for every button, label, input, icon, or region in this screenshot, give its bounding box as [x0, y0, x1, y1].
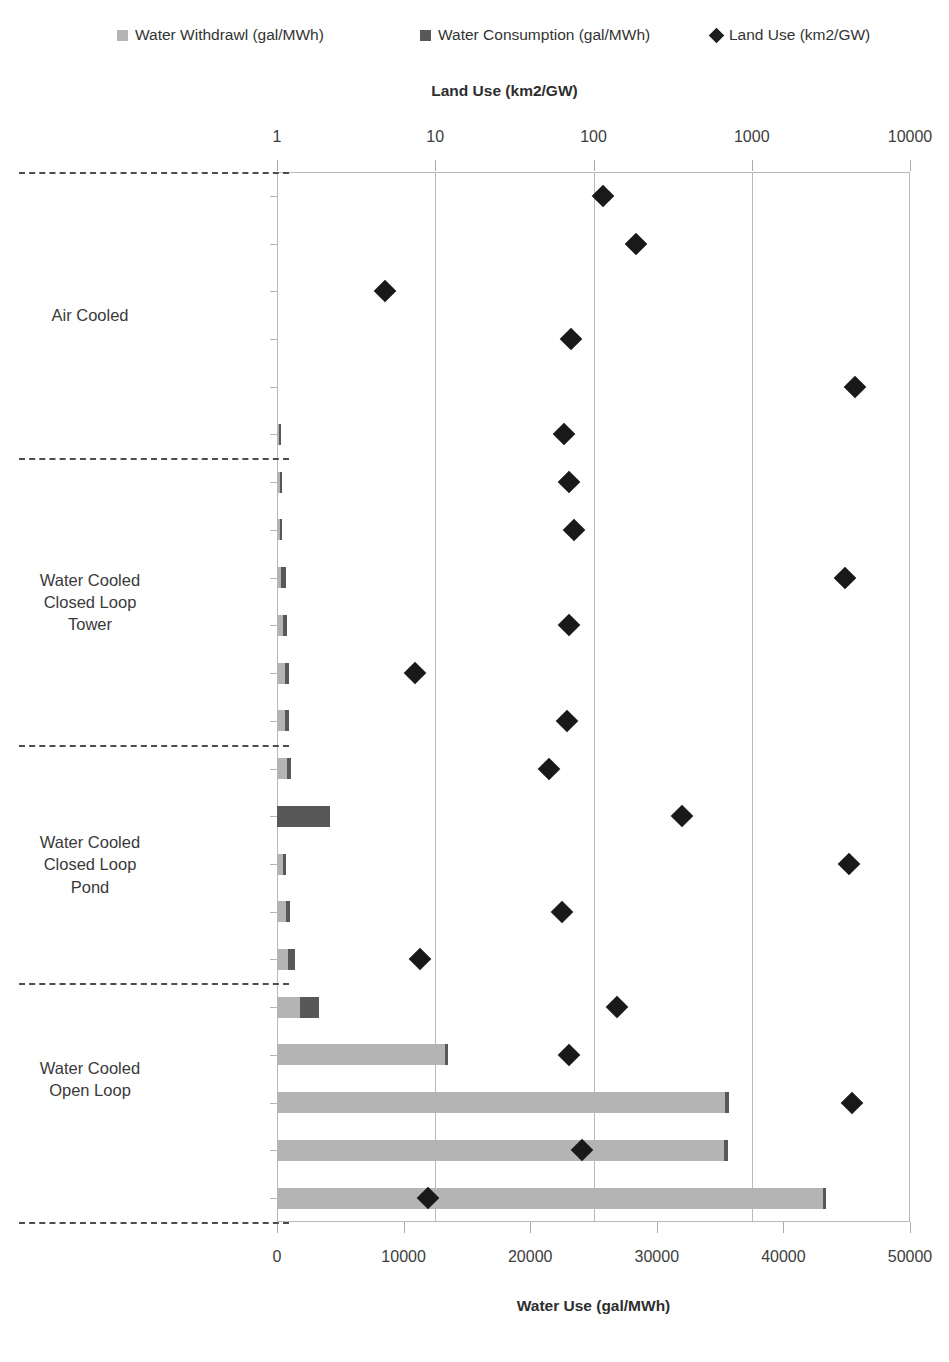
land-use-diamond-marker	[558, 1044, 581, 1067]
square-swatch-icon	[420, 30, 431, 41]
category-axis-tick	[270, 1198, 277, 1199]
category-axis-tick	[270, 769, 277, 770]
group-label: Water CooledOpen Loop	[5, 1057, 175, 1102]
legend-label: Land Use (km2/GW)	[729, 26, 870, 44]
water-consumption-bar	[286, 901, 290, 922]
chart-row: Coal IGCC	[277, 458, 910, 506]
top-axis-tick-label: 10000	[888, 128, 933, 146]
water-withdrawal-bar	[277, 1140, 724, 1161]
category-axis-tick	[270, 291, 277, 292]
land-use-diamond-marker	[834, 566, 857, 589]
bottom-axis-tick-label: 30000	[635, 1248, 680, 1266]
category-axis-tick	[270, 244, 277, 245]
water-consumption-bar	[277, 806, 330, 827]
water-withdrawal-bar	[277, 949, 288, 970]
water-withdrawal-bar	[277, 758, 287, 779]
water-consumption-bar	[300, 997, 319, 1018]
water-withdrawal-bar	[277, 1188, 823, 1209]
category-axis-tick	[270, 912, 277, 913]
water-withdrawal-bar	[277, 997, 300, 1018]
land-use-diamond-marker	[560, 328, 583, 351]
category-axis-tick	[270, 673, 277, 674]
bottom-axis-title: Water Use (gal/MWh)	[277, 1297, 910, 1315]
group-separator	[19, 1222, 289, 1224]
land-use-diamond-marker	[841, 1091, 864, 1114]
land-use-diamond-marker	[562, 519, 585, 542]
category-axis-tick	[270, 434, 277, 435]
chart-row: Nuclear	[277, 1174, 910, 1222]
top-axis-tick	[594, 160, 595, 171]
water-consumption-bar	[724, 1140, 728, 1161]
water-consumption-bar	[445, 1044, 448, 1065]
chart-row: Natural Gas	[277, 315, 910, 363]
bottom-axis-tick-label: 0	[273, 1248, 282, 1266]
category-axis-tick	[270, 864, 277, 865]
land-use-diamond-marker	[553, 423, 576, 446]
chart-row: Biomass	[277, 363, 910, 411]
chart-row: Solar Trough	[277, 745, 910, 793]
land-use-diamond-marker	[592, 185, 615, 208]
water-consumption-bar	[283, 854, 286, 875]
group-separator	[19, 983, 289, 985]
top-axis-tick	[435, 160, 436, 171]
chart-row: Nuclear	[277, 267, 910, 315]
chart-row: Hydroelectric	[277, 792, 910, 840]
land-use-diamond-marker	[556, 710, 579, 733]
legend-item-water-consumption: Water Consumption (gal/MWh)	[420, 26, 650, 44]
legend-item-water-withdrawal: Water Withdrawl (gal/MWh)	[117, 26, 324, 44]
land-use-diamond-marker	[837, 853, 860, 876]
category-axis-tick	[270, 196, 277, 197]
chart-row: Coal	[277, 888, 910, 936]
land-use-diamond-marker	[550, 900, 573, 923]
land-use-diamond-marker	[605, 996, 628, 1019]
category-axis-tick	[270, 1150, 277, 1151]
water-consumption-bar	[287, 758, 291, 779]
top-axis-tick-label: 1000	[734, 128, 770, 146]
chart-row: Nuclear	[277, 649, 910, 697]
category-axis-tick	[270, 578, 277, 579]
category-axis-tick	[270, 339, 277, 340]
chart-plot-area: 110100100010000 010000200003000040000500…	[277, 172, 910, 1222]
chart-row: Coal	[277, 1127, 910, 1175]
land-use-diamond-marker	[558, 471, 581, 494]
chart-legend: Water Withdrawl (gal/MWh) Water Consumpt…	[0, 22, 949, 56]
group-label: Air Cooled	[5, 304, 175, 326]
water-withdrawal-bar	[277, 710, 285, 731]
water-consumption-bar	[823, 1188, 827, 1209]
chart-row: Natural Gas	[277, 1031, 910, 1079]
chart-row: Natural Gas	[277, 506, 910, 554]
water-withdrawal-bar	[277, 1044, 445, 1065]
category-axis-tick	[270, 387, 277, 388]
category-axis-tick	[270, 959, 277, 960]
bottom-axis-tick	[404, 1222, 405, 1233]
chart-row: Solar PV	[277, 172, 910, 220]
top-axis-tick	[752, 160, 753, 171]
category-axis-tick	[270, 1103, 277, 1104]
group-separator	[19, 745, 289, 747]
bottom-axis-tick	[783, 1222, 784, 1233]
chart-row: Coal	[277, 602, 910, 650]
top-axis-tick	[910, 160, 911, 171]
top-axis-tick-label: 1	[273, 128, 282, 146]
chart-row: Geothermal	[277, 983, 910, 1031]
water-consumption-bar	[280, 519, 282, 540]
category-axis-tick	[270, 625, 277, 626]
water-consumption-bar	[288, 949, 294, 970]
legend-label: Water Withdrawl (gal/MWh)	[135, 26, 324, 44]
square-swatch-icon	[117, 30, 128, 41]
chart-row: Solar Tower	[277, 697, 910, 745]
chart-row: Nuclear	[277, 936, 910, 984]
water-withdrawal-bar	[277, 663, 285, 684]
legend-item-land-use: Land Use (km2/GW)	[711, 26, 870, 44]
category-axis-tick	[270, 1007, 277, 1008]
bottom-axis-tick	[530, 1222, 531, 1233]
land-use-diamond-marker	[558, 614, 581, 637]
group-separator	[19, 458, 289, 460]
bottom-axis-tick-label: 50000	[888, 1248, 933, 1266]
chart-row: Wind	[277, 220, 910, 268]
chart-row: Biomass	[277, 1079, 910, 1127]
chart-row: Biomass	[277, 840, 910, 888]
top-axis-tick-label: 100	[580, 128, 607, 146]
land-use-diamond-marker	[537, 757, 560, 780]
category-axis-tick	[270, 530, 277, 531]
